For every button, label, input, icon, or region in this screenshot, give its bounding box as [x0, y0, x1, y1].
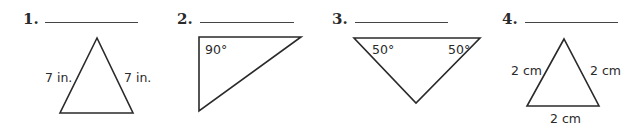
triangle-3-left-angle-label: 50° — [372, 42, 394, 57]
triangles-figure: 7 in. 7 in. 90° 50° 50° 2 cm 2 cm 2 cm — [0, 0, 640, 135]
triangle-4-left-label: 2 cm — [511, 63, 542, 78]
triangle-3-right-angle-label: 50° — [448, 42, 470, 57]
triangle-2-angle-label: 90° — [205, 42, 227, 57]
triangle-1-left-label: 7 in. — [45, 70, 72, 85]
triangle-1-right-label: 7 in. — [124, 70, 151, 85]
triangle-4-base-label: 2 cm — [550, 111, 581, 126]
triangle-4-right-label: 2 cm — [590, 63, 621, 78]
